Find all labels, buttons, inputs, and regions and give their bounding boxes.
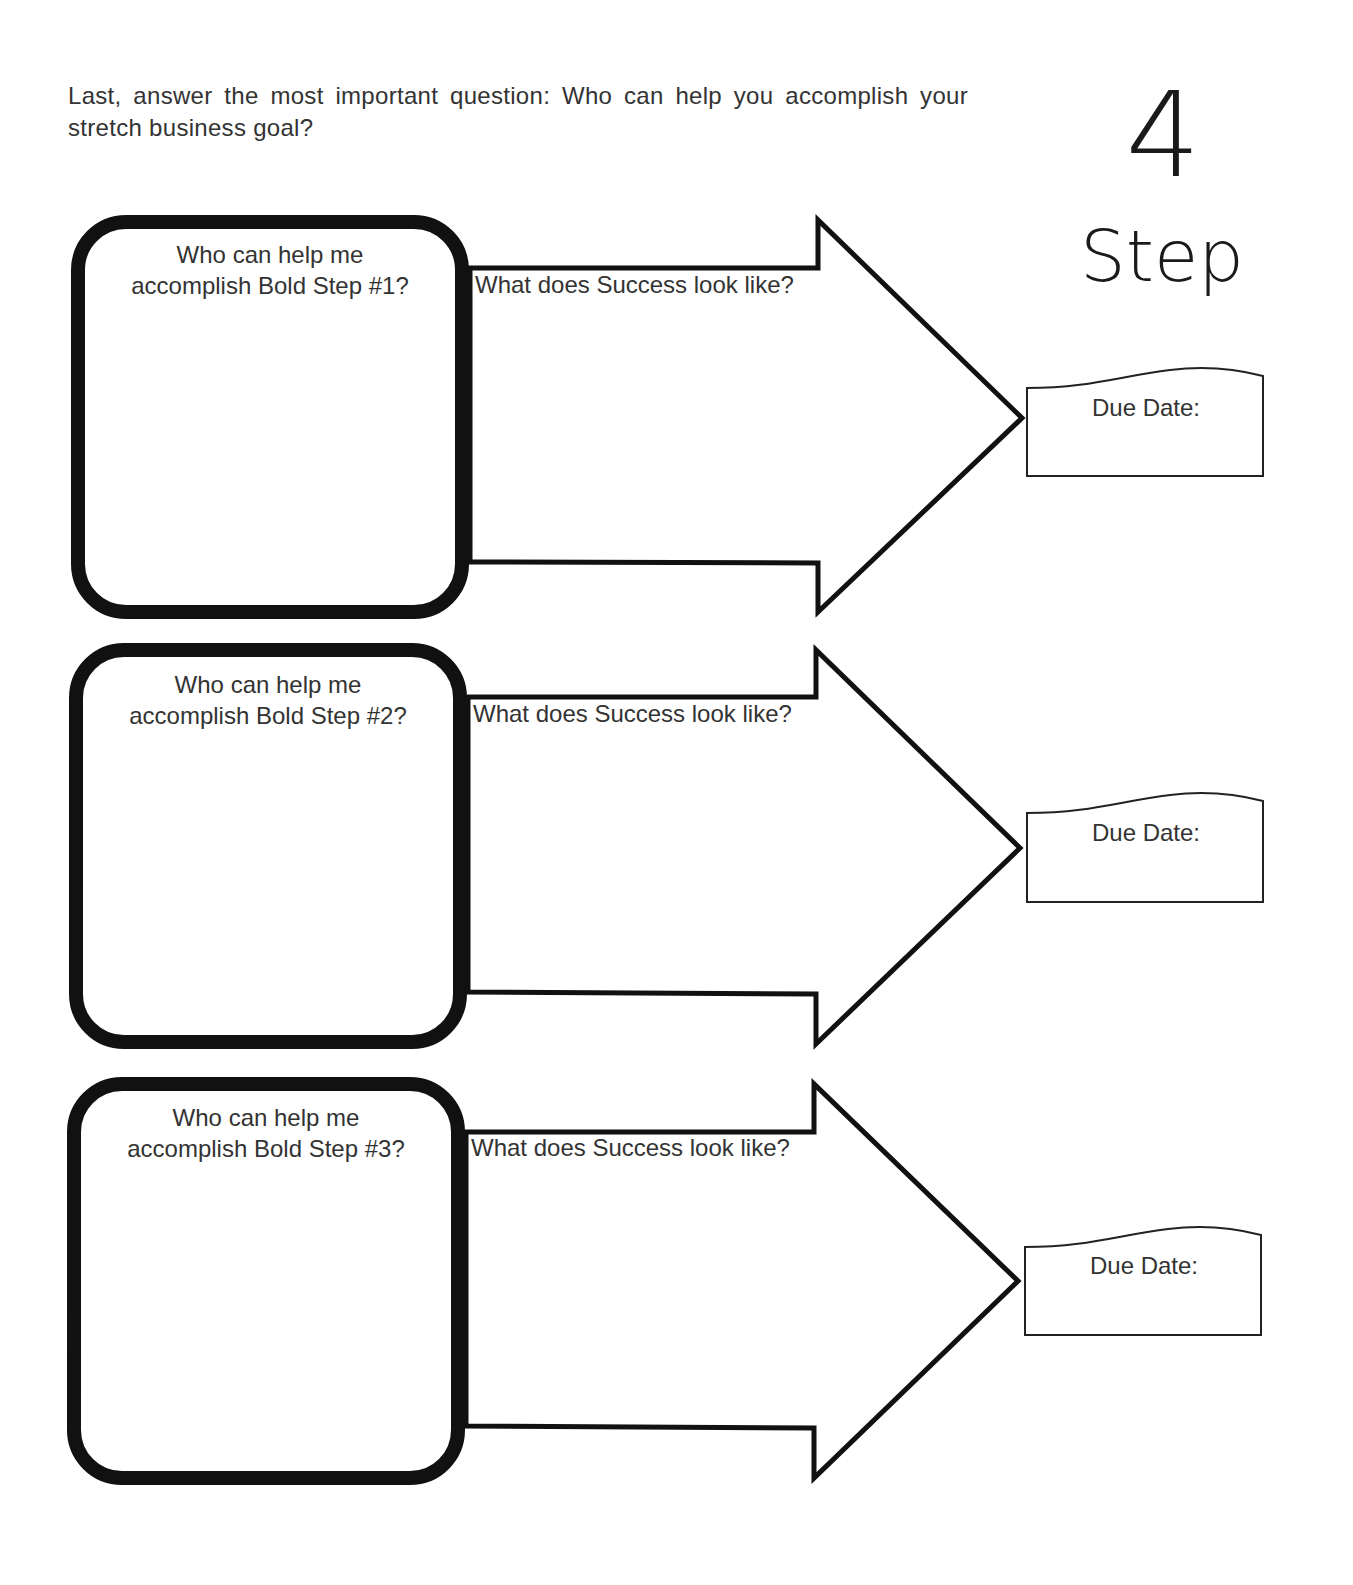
who-prompt-1-line2: accomplish Bold Step #1?: [100, 270, 440, 301]
who-prompt-2: Who can help me accomplish Bold Step #2?: [98, 669, 438, 731]
success-prompt-1: What does Success look like?: [475, 270, 794, 300]
who-answer-area-1[interactable]: [92, 310, 448, 600]
who-prompt-1: Who can help me accomplish Bold Step #1?: [100, 239, 440, 301]
who-prompt-3-line2: accomplish Bold Step #3?: [96, 1133, 436, 1164]
due-date-label-1: Due Date:: [1027, 393, 1265, 423]
success-answer-area-2[interactable]: [478, 735, 808, 985]
who-prompt-3: Who can help me accomplish Bold Step #3?: [96, 1102, 436, 1164]
who-answer-area-2[interactable]: [90, 740, 446, 1030]
success-prompt-2: What does Success look like?: [473, 699, 792, 729]
who-prompt-1-line1: Who can help me: [100, 239, 440, 270]
who-prompt-2-line1: Who can help me: [98, 669, 438, 700]
due-date-label-3: Due Date:: [1025, 1251, 1263, 1281]
due-date-field-2[interactable]: [1032, 853, 1258, 897]
due-date-field-3[interactable]: [1030, 1286, 1256, 1330]
who-answer-area-3[interactable]: [88, 1172, 444, 1464]
due-date-field-1[interactable]: [1032, 428, 1258, 472]
who-prompt-3-line1: Who can help me: [96, 1102, 436, 1133]
due-date-label-2: Due Date:: [1027, 818, 1265, 848]
success-answer-area-1[interactable]: [480, 305, 810, 555]
success-prompt-3: What does Success look like?: [471, 1133, 790, 1163]
who-prompt-2-line2: accomplish Bold Step #2?: [98, 700, 438, 731]
success-answer-area-3[interactable]: [476, 1170, 806, 1420]
